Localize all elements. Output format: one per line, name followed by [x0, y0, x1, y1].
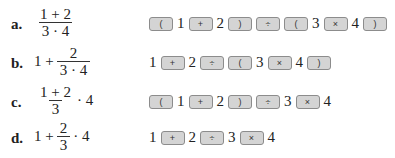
row-label: d.	[11, 130, 23, 147]
fraction: 23 · 4	[57, 45, 91, 78]
divide-key-icon: ÷	[256, 95, 280, 109]
open-paren-key-icon: (	[149, 17, 173, 31]
digit: 3	[228, 129, 236, 146]
divide-key-icon: ÷	[200, 131, 224, 145]
digit: 2	[189, 54, 197, 71]
open-paren-key-icon: (	[284, 17, 308, 31]
plus-key-icon: +	[189, 17, 213, 31]
multiply-key-icon: ×	[324, 17, 348, 31]
keystroke-sequence: 1+2÷(3×4)	[147, 54, 333, 71]
digit: 4	[352, 15, 360, 32]
numerator: 1 + 2	[37, 6, 74, 22]
fraction: 23	[57, 120, 71, 153]
digit: 3	[284, 93, 292, 110]
numerator: 2	[67, 45, 81, 61]
open-paren-key-icon: (	[228, 56, 252, 70]
digit: 1	[149, 129, 157, 146]
numerator: 1 + 2	[37, 84, 74, 100]
fraction: 1 + 23	[37, 84, 74, 117]
row-label: c.	[11, 94, 21, 111]
expression-suffix: · 4	[73, 128, 89, 145]
denominator: 3 · 4	[57, 61, 91, 78]
digit: 1	[177, 15, 185, 32]
divide-key-icon: ÷	[256, 17, 280, 31]
math-expression: 1 + 23 · 4	[34, 6, 77, 39]
digit: 3	[256, 54, 264, 71]
expression-suffix: · 4	[77, 92, 93, 109]
digit: 4	[324, 93, 332, 110]
digit: 2	[189, 129, 197, 146]
math-expression: 1 +23· 4	[34, 120, 89, 153]
close-paren-key-icon: )	[228, 95, 252, 109]
row-label: b.	[11, 55, 23, 72]
close-paren-key-icon: )	[307, 56, 331, 70]
close-paren-key-icon: )	[228, 17, 252, 31]
denominator: 3 · 4	[39, 22, 73, 39]
open-paren-key-icon: (	[149, 95, 173, 109]
digit: 1	[177, 93, 185, 110]
exercise-row: c.1 + 23· 4(1+2)÷3×4	[0, 84, 395, 120]
fraction: 1 + 23 · 4	[37, 6, 74, 39]
exercise-row: b.1 +23 · 41+2÷(3×4)	[0, 45, 395, 81]
plus-key-icon: +	[189, 95, 213, 109]
keystroke-sequence: (1+2)÷(3×4)	[147, 15, 389, 32]
denominator: 3	[49, 100, 63, 117]
keystroke-sequence: 1+2÷3×4	[147, 129, 277, 146]
multiply-key-icon: ×	[268, 56, 292, 70]
exercise-row: d.1 +23· 41+2÷3×4	[0, 120, 395, 156]
expression-prefix: 1 +	[34, 53, 54, 70]
digit: 2	[217, 15, 225, 32]
keystroke-sequence: (1+2)÷3×4	[147, 93, 333, 110]
math-expression: 1 + 23· 4	[34, 84, 93, 117]
denominator: 3	[57, 136, 71, 153]
plus-key-icon: +	[161, 56, 185, 70]
digit: 4	[268, 129, 276, 146]
multiply-key-icon: ×	[296, 95, 320, 109]
math-expression: 1 +23 · 4	[34, 45, 93, 78]
multiply-key-icon: ×	[240, 131, 264, 145]
exercise-row: a.1 + 23 · 4(1+2)÷(3×4)	[0, 6, 395, 42]
plus-key-icon: +	[161, 131, 185, 145]
close-paren-key-icon: )	[363, 17, 387, 31]
numerator: 2	[57, 120, 71, 136]
digit: 3	[312, 15, 320, 32]
digit: 1	[149, 54, 157, 71]
row-label: a.	[11, 16, 22, 33]
digit: 4	[296, 54, 304, 71]
digit: 2	[217, 93, 225, 110]
divide-key-icon: ÷	[200, 56, 224, 70]
expression-prefix: 1 +	[34, 128, 54, 145]
